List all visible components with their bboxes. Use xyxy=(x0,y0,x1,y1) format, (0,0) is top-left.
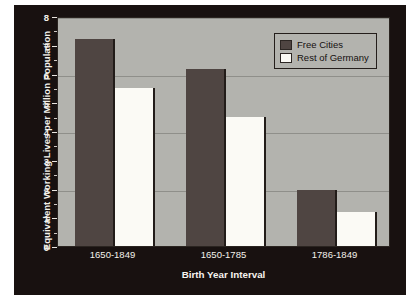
y-axis-tick-label: 3 xyxy=(44,155,49,166)
y-axis-tick-label: 7 xyxy=(44,40,49,51)
gridline xyxy=(58,18,389,19)
x-axis-title: Birth Year Interval xyxy=(57,269,390,280)
y-axis-tick-label: 0 xyxy=(44,242,49,253)
y-axis-tick xyxy=(52,247,57,248)
y-axis-tick-label: 4 xyxy=(44,127,49,138)
legend-swatch-rest-of-germany xyxy=(280,53,292,63)
bar xyxy=(337,212,375,247)
y-axis: 012345678 xyxy=(14,17,57,247)
y-axis-tick-label: 2 xyxy=(44,184,49,195)
chart-legend: Free Cities Rest of Germany xyxy=(274,33,377,69)
bar xyxy=(226,117,264,246)
bar xyxy=(75,39,113,246)
bar xyxy=(115,88,153,246)
y-axis-tick-label: 1 xyxy=(44,213,49,224)
x-axis-tick-label: 1786-1849 xyxy=(312,249,357,260)
x-axis-tick-label: 1650-1785 xyxy=(201,249,246,260)
chart-figure: Equivalent Working Lives per Million Pop… xyxy=(0,0,420,305)
bar xyxy=(186,69,224,246)
legend-label-rest-of-germany: Rest of Germany xyxy=(297,52,369,63)
y-axis-tick-label: 8 xyxy=(44,12,49,23)
x-axis-tick-label: 1650-1849 xyxy=(90,249,135,260)
y-axis-tick-label: 5 xyxy=(44,98,49,109)
legend-swatch-free-cities xyxy=(280,40,292,50)
y-axis-tick-label: 6 xyxy=(44,69,49,80)
legend-label-free-cities: Free Cities xyxy=(297,39,343,50)
legend-item: Free Cities xyxy=(280,38,369,51)
bar xyxy=(297,190,335,246)
x-axis: 1650-18491650-17851786-1849 xyxy=(57,249,390,269)
legend-item: Rest of Germany xyxy=(280,51,369,64)
